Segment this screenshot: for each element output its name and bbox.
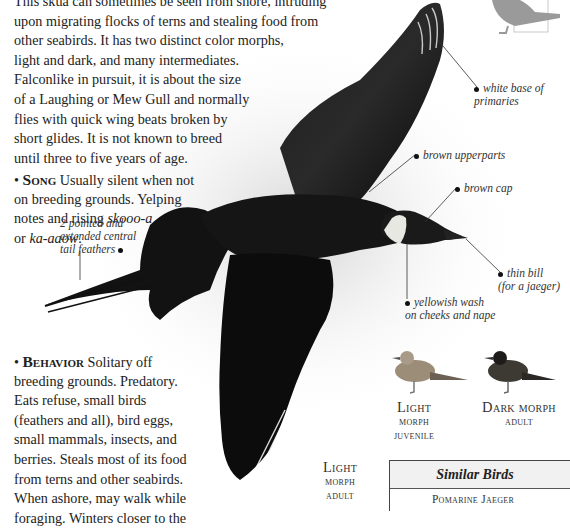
caption-text: Dark morph (474, 400, 564, 414)
behavior-text: breeding grounds. Predatory. (14, 372, 187, 392)
bullet: • (14, 354, 23, 370)
callout-text: brown upperparts (423, 149, 505, 161)
intro-line: until three to five years of age. (14, 149, 326, 169)
behavior-text: Eats refuse, small birds (14, 391, 187, 411)
similar-birds-box: Similar Birds Pomarine Jaeger (389, 460, 570, 511)
callout-bill: thin bill (for a jaeger) (498, 267, 560, 293)
callout-primaries: white base of primaries (474, 82, 544, 108)
intro-line: This skua can sometimes be seen from sho… (14, 0, 326, 12)
bullet: • (14, 172, 23, 188)
callout-dot (118, 248, 123, 253)
behavior-section: • Behavior Solitary off breeding grounds… (14, 352, 187, 528)
dark-bird-illustration (484, 351, 556, 393)
caption-text: adult (474, 414, 564, 428)
callout-text: tail feathers (60, 243, 115, 255)
callout-dot (405, 301, 410, 306)
similar-bird-pomarine-jaeger: Pomarine Jaeger (390, 489, 570, 505)
caption-dark-morph-adult: Dark morph adult (474, 400, 564, 428)
caption-text: morph (310, 474, 370, 488)
caption-text: adult (310, 488, 370, 502)
caption-light-morph-juvenile: Light morph juvenile (384, 400, 444, 442)
callout-text: 2 pointed and (60, 217, 136, 230)
song-text: Usually silent when not (60, 172, 194, 188)
callout-yellowish-wash: yellowish wash on cheeks and nape (405, 296, 495, 322)
behavior-text: Solitary off (88, 354, 153, 370)
callout-dot (455, 187, 460, 192)
callout-tail-feathers: 2 pointed and extended central tail feat… (60, 217, 136, 256)
callout-text: yellowish wash (414, 296, 484, 308)
behavior-text: (feathers and all), bird eggs, (14, 411, 187, 431)
callout-text: on cheeks and nape (405, 309, 495, 322)
behavior-text: When ashore, may walk while (14, 489, 187, 509)
behavior-text: foraging. Winters closer to the (14, 509, 187, 528)
intro-line: short glides. It is not known to breed (14, 129, 326, 149)
caption-light-morph-adult: Light morph adult (310, 460, 370, 502)
caption-text: morph (384, 414, 444, 428)
callout-dot (414, 154, 419, 159)
behavior-text: berries. Steals most of its food (14, 450, 187, 470)
behavior-heading: Behavior (23, 353, 84, 370)
intro-line: Falconlike in pursuit, it is about the s… (14, 70, 326, 90)
callout-text: (for a jaeger) (498, 280, 560, 293)
caption-text: Light (384, 400, 444, 414)
callout-text: white base of (483, 82, 544, 94)
intro-line: flies with quick wing beats broken by (14, 110, 326, 130)
callout-text: brown cap (464, 182, 512, 194)
intro-line: other seabirds. It has two distinct colo… (14, 31, 326, 51)
silhouette-icon (492, 0, 560, 33)
callout-text: primaries (474, 95, 544, 108)
behavior-text: small mammals, insects, and (14, 430, 187, 450)
callout-upperparts: brown upperparts (414, 149, 505, 162)
callout-cap: brown cap (455, 182, 512, 195)
intro-line: upon migrating flocks of terns and steal… (14, 12, 326, 32)
caption-text: juvenile (384, 428, 444, 442)
song-text: on breeding grounds. Yelping (14, 190, 194, 210)
intro-line: light and dark, and many intermediates. (14, 51, 326, 71)
behavior-text: from terns and other seabirds. (14, 470, 187, 490)
callout-dot (474, 87, 479, 92)
similar-birds-title: Similar Birds (390, 461, 570, 489)
callout-dot (498, 272, 503, 277)
song-heading: Song (23, 171, 57, 188)
song-text: or (14, 230, 29, 246)
callout-text: extended central (60, 230, 136, 243)
caption-text: Light (310, 460, 370, 474)
callout-text: thin bill (507, 267, 543, 279)
intro-line: of a Laughing or Mew Gull and normally (14, 90, 326, 110)
intro-paragraph: This skua can sometimes be seen from sho… (14, 0, 326, 168)
